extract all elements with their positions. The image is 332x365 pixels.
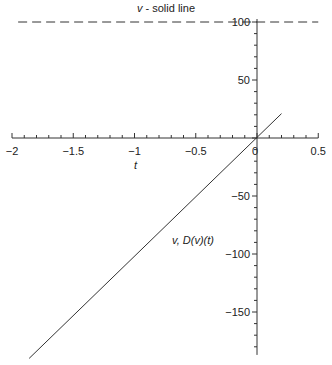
x-tick-label: 0.5 [311,145,326,157]
x-tick-label: −1 [128,145,141,157]
chart-title: v - solid line [137,2,195,14]
y-tick-label: −50 [231,190,250,202]
chart: −2−1.5−1−0.500.5t10050−50−100−150v - sol… [0,0,332,365]
x-axis-label: t [134,159,138,171]
x-tick-label: −1.5 [62,145,84,157]
y-tick-label: −100 [225,248,250,260]
annotation: v, D(v)(t) [172,234,214,246]
x-tick-label: −0.5 [185,145,207,157]
y-tick-label: 50 [238,74,250,86]
y-tick-label: −150 [225,306,250,318]
x-tick-label: −2 [6,145,19,157]
